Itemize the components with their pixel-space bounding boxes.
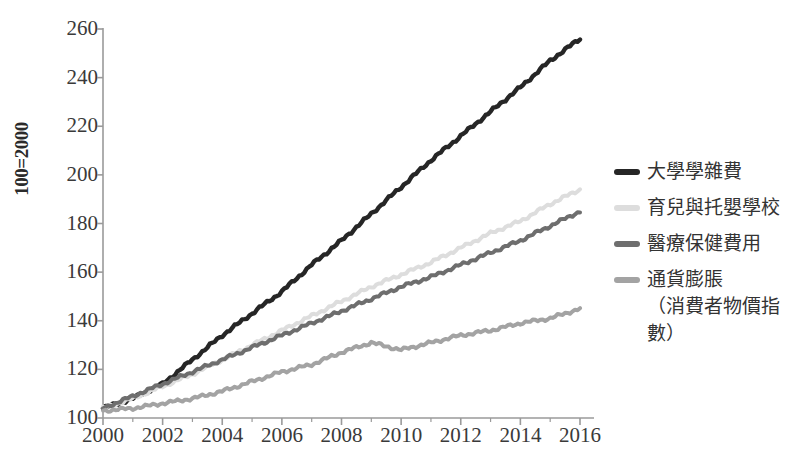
chart-legend: 大學學雜費育兒與托嬰學校醫療保健費用通貨膨脹 （消費者物價指數） xyxy=(614,158,802,356)
chart-container: 100=2000 260240220200180160140120100 200… xyxy=(0,0,804,457)
legend-label: 育兒與托嬰學校 xyxy=(647,194,780,221)
legend-swatch-icon xyxy=(614,169,640,175)
legend-item[interactable]: 大學學雜費 xyxy=(614,158,802,185)
series-line-4 xyxy=(103,308,580,412)
legend-item[interactable]: 醫療保健費用 xyxy=(614,230,802,257)
legend-swatch-icon xyxy=(614,205,640,211)
legend-label: 大學學雜費 xyxy=(647,158,742,185)
legend-swatch-icon xyxy=(614,241,640,247)
legend-label: 通貨膨脹 （消費者物價指數） xyxy=(647,266,802,347)
legend-label: 醫療保健費用 xyxy=(647,230,761,257)
legend-swatch-icon xyxy=(614,277,640,283)
legend-item[interactable]: 育兒與托嬰學校 xyxy=(614,194,802,221)
legend-item[interactable]: 通貨膨脹 （消費者物價指數） xyxy=(614,266,802,347)
